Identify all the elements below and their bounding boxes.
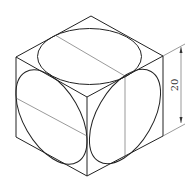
cube-edges bbox=[16, 16, 163, 176]
isometric-cube-drawing: 20 bbox=[0, 0, 195, 187]
edge-left-top bbox=[16, 57, 87, 97]
arrow-top-icon bbox=[180, 47, 183, 53]
top-face-ellipse bbox=[38, 29, 142, 85]
dimension-annotation: 20 bbox=[163, 44, 185, 136]
top-face-axis-line bbox=[55, 35, 125, 76]
dimension-label: 20 bbox=[169, 79, 180, 92]
extension-line-bottom bbox=[163, 124, 185, 136]
arrow-bottom-icon bbox=[180, 117, 183, 123]
